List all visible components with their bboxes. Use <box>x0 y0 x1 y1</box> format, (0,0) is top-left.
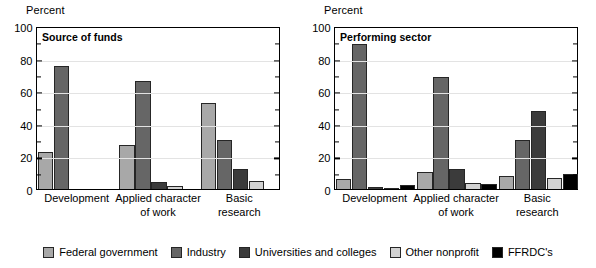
axis-tick-mark <box>275 44 279 45</box>
bar <box>135 81 151 189</box>
y-axis-label-left: Percent <box>26 4 65 16</box>
gridline <box>335 126 577 127</box>
y-axis-tick-label: 40 <box>20 120 37 131</box>
chart-panels: Percent Source of funds 020406080100 Dev… <box>0 0 596 236</box>
axis-tick-mark <box>573 109 577 110</box>
bar <box>151 182 167 189</box>
gridline <box>37 158 279 159</box>
legend-item: Other nonprofit <box>390 246 479 258</box>
y-axis-tick-label: 100 <box>312 23 335 34</box>
y-axis-tick-label: 60 <box>20 88 37 99</box>
axis-tick-mark <box>573 142 577 143</box>
bar-group <box>499 28 579 189</box>
axis-tick-mark <box>37 109 41 110</box>
bar <box>201 103 217 189</box>
axis-tick-mark <box>37 60 42 61</box>
bar <box>547 178 563 189</box>
bar <box>167 186 183 189</box>
axis-tick-mark <box>37 44 41 45</box>
bar-group <box>119 28 199 189</box>
figure: Percent Source of funds 020406080100 Dev… <box>0 0 596 268</box>
axis-tick-mark <box>572 60 577 61</box>
x-axis-category-label: Applied character of work <box>115 192 201 219</box>
bar <box>352 44 368 189</box>
axis-tick-mark <box>274 60 279 61</box>
panel-title-left: Source of funds <box>42 31 123 43</box>
y-axis-tick-label: 80 <box>318 55 335 66</box>
legend-swatch-icon <box>171 247 182 258</box>
axis-tick-mark <box>275 76 279 77</box>
axis-tick-mark <box>335 125 340 126</box>
y-axis-label-right: Percent <box>324 4 363 16</box>
x-axis-labels-right: DevelopmentApplied character of workBasi… <box>334 192 578 228</box>
axis-tick-mark <box>335 158 340 159</box>
bar-group <box>336 28 416 189</box>
legend-label: Universities and colleges <box>255 246 377 258</box>
legend-swatch-icon <box>390 247 401 258</box>
axis-tick-mark <box>37 125 42 126</box>
x-axis-category-label: Basic research <box>218 192 261 219</box>
bar <box>119 145 135 189</box>
axis-tick-mark <box>335 93 340 94</box>
legend-swatch-icon <box>239 247 250 258</box>
axis-tick-mark <box>37 142 41 143</box>
bar <box>499 176 515 189</box>
axis-tick-mark <box>275 174 279 175</box>
x-axis-category-label: Development <box>342 192 407 206</box>
bar <box>563 174 579 189</box>
axis-tick-mark <box>335 76 339 77</box>
gridline <box>37 93 279 94</box>
gridline <box>37 61 279 62</box>
axis-tick-mark <box>335 142 339 143</box>
y-axis-tick-label: 80 <box>20 55 37 66</box>
axis-tick-mark <box>572 158 577 159</box>
x-axis-category-label: Development <box>44 192 109 206</box>
chart-panel-performing-sector: Percent Performing sector 020406080100 D… <box>298 0 596 236</box>
plot-area-right: Performing sector 020406080100 <box>334 27 578 190</box>
axis-tick-mark <box>573 76 577 77</box>
y-axis-tick-label: 100 <box>14 23 37 34</box>
bar-group-container-right <box>335 28 577 189</box>
legend-swatch-icon <box>43 247 54 258</box>
y-axis-tick-label: 20 <box>20 153 37 164</box>
bar <box>54 66 70 189</box>
bar <box>449 169 465 189</box>
legend-item: Universities and colleges <box>239 246 377 258</box>
axis-tick-mark <box>573 44 577 45</box>
y-axis-tick-label: 40 <box>318 120 335 131</box>
axis-tick-mark <box>37 76 41 77</box>
panel-title-right: Performing sector <box>340 31 431 43</box>
gridline <box>335 61 577 62</box>
axis-tick-mark <box>275 142 279 143</box>
y-axis-tick-label: 60 <box>318 88 335 99</box>
bar <box>384 188 400 189</box>
axis-tick-mark <box>335 44 339 45</box>
axis-tick-mark <box>37 93 42 94</box>
bar <box>515 140 531 189</box>
axis-tick-mark <box>37 158 42 159</box>
gridline <box>335 158 577 159</box>
bar-group <box>417 28 497 189</box>
gridline <box>37 126 279 127</box>
legend-label: Federal government <box>59 246 157 258</box>
axis-tick-mark <box>572 93 577 94</box>
axis-tick-mark <box>274 93 279 94</box>
bar <box>217 140 233 189</box>
legend-swatch-icon <box>492 247 503 258</box>
bar <box>531 111 547 189</box>
plot-area-left: Source of funds 020406080100 <box>36 27 280 190</box>
axis-tick-mark <box>274 158 279 159</box>
bar-group <box>201 28 281 189</box>
bar <box>233 169 249 189</box>
gridline <box>335 93 577 94</box>
legend-label: Other nonprofit <box>406 246 479 258</box>
x-axis-labels-left: DevelopmentApplied character of workBasi… <box>36 192 280 228</box>
x-axis-category-label: Basic research <box>516 192 559 219</box>
axis-tick-mark <box>573 174 577 175</box>
axis-tick-mark <box>274 125 279 126</box>
x-axis-category-label: Applied character of work <box>413 192 499 219</box>
bar <box>400 185 416 189</box>
legend-label: Industry <box>187 246 226 258</box>
bar-group-container-left <box>37 28 279 189</box>
legend-item: Federal government <box>43 246 157 258</box>
